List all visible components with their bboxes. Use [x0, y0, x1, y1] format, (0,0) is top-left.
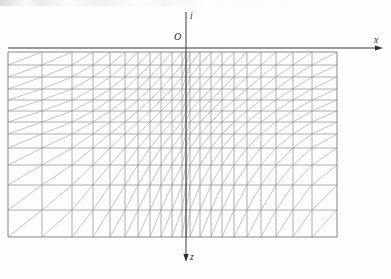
mesh-diagonal [247, 165, 261, 185]
mesh-diagonal [186, 122, 190, 134]
mesh-diagonal [276, 122, 293, 134]
mesh-diagonal [276, 165, 293, 185]
mesh-diagonal [110, 65, 125, 77]
mesh-diagonal [125, 100, 138, 111]
mesh-diagonal [8, 77, 42, 89]
mesh-diagonal [186, 52, 190, 65]
origin-label: O [174, 31, 181, 42]
mesh-diagonal [190, 185, 200, 210]
mesh-diagonal [190, 134, 200, 148]
mesh-diagonal [110, 77, 125, 89]
mesh-diagonal [138, 210, 150, 237]
mesh-diagonal [247, 100, 261, 111]
mesh-diagonal [276, 100, 293, 111]
mesh-diagonal [161, 65, 172, 77]
mesh-diagonal [200, 65, 211, 77]
x-axis-arrowhead [375, 45, 383, 50]
mesh-diagonal [161, 148, 172, 165]
mesh-diagonal [93, 89, 110, 100]
mesh-diagonal [72, 52, 93, 65]
mesh-diagonal [222, 165, 234, 185]
mesh-diagonal [138, 122, 150, 134]
mesh-diagonal [172, 100, 182, 111]
mesh-diagonal [8, 52, 42, 65]
mesh-diagonal [138, 185, 150, 210]
mesh-diagonal [247, 65, 261, 77]
mesh-diagonal [8, 210, 42, 237]
mesh-diagonal [222, 52, 234, 65]
mesh-diagonal [125, 89, 138, 100]
mesh-diagonal [182, 185, 186, 210]
mesh-diagonal [293, 77, 312, 89]
mesh-diagonal [8, 111, 42, 122]
mesh-diagonal [261, 77, 276, 89]
mesh-diagonal [186, 100, 190, 111]
figure-root: x i z O [0, 0, 391, 279]
mesh-diagonal [247, 148, 261, 165]
mesh-diagonal [186, 111, 190, 122]
mesh-diagonal [125, 65, 138, 77]
axis-labels-group: x i z O [174, 11, 379, 262]
mesh-diagonal [150, 165, 161, 185]
mesh-diagonal [234, 111, 247, 122]
mesh-diagonal [200, 134, 211, 148]
mesh-diagonal [161, 52, 172, 65]
mesh-diagonal [150, 52, 161, 65]
mesh-diagonal [276, 111, 293, 122]
mesh-diagonal [190, 89, 200, 100]
mesh-diagonal [190, 122, 200, 134]
mesh-diagonal [172, 111, 182, 122]
x-axis-label: x [373, 35, 379, 45]
mesh-diagonal [110, 122, 125, 134]
mesh-diagonal [42, 134, 72, 148]
mesh-diagonal [222, 111, 234, 122]
mesh-diagonal [234, 77, 247, 89]
mesh-diagonal [261, 52, 276, 65]
mesh-diagonal [42, 185, 72, 210]
mesh-diagonal [261, 89, 276, 100]
mesh-diagonal [200, 52, 211, 65]
mesh-diagonal [172, 89, 182, 100]
mesh-diagonal [150, 210, 161, 237]
mesh-diagonal [211, 77, 222, 89]
mesh-diagonal [8, 65, 42, 77]
mesh-diagonal [247, 210, 261, 237]
mesh-diagonal [72, 134, 93, 148]
mesh-diagonal [93, 111, 110, 122]
mesh-diagonal [247, 52, 261, 65]
mesh-diagonal [93, 148, 110, 165]
mesh-diagonal [93, 65, 110, 77]
mesh-diagonal [222, 122, 234, 134]
mesh-diagonal [293, 89, 312, 100]
mesh-diagonal [172, 165, 182, 185]
mesh-diagonal [293, 185, 312, 210]
mesh-diagonal [293, 134, 312, 148]
mesh-diagonal [172, 65, 182, 77]
mesh-diagonal [261, 165, 276, 185]
mesh-diagonal [247, 111, 261, 122]
mesh-diagonal [72, 148, 93, 165]
mesh-diagonal [261, 210, 276, 237]
mesh-diagonal [125, 77, 138, 89]
mesh-diagonal [42, 148, 72, 165]
mesh-diagonal [72, 122, 93, 134]
mesh-diagonal [42, 165, 72, 185]
mesh-diagonal [150, 185, 161, 210]
mesh-diagonal [125, 122, 138, 134]
mesh-diagonal [190, 65, 200, 77]
mesh-diagonal [125, 52, 138, 65]
mesh-diagonal [190, 148, 200, 165]
mesh-diagonal [211, 111, 222, 122]
mesh-diagonal [293, 210, 312, 237]
mesh-diagonal [182, 65, 186, 77]
mesh-diagonal [190, 111, 200, 122]
mesh-diagonal [93, 100, 110, 111]
mesh-diagonal [211, 122, 222, 134]
mesh-diagonal [222, 134, 234, 148]
mesh-diagonal [261, 148, 276, 165]
mesh-diagonal [261, 134, 276, 148]
mesh-diagonal [211, 100, 222, 111]
mesh-diagonal [186, 165, 190, 185]
mesh-diagonal [110, 111, 125, 122]
mesh-diagonal [312, 100, 337, 111]
